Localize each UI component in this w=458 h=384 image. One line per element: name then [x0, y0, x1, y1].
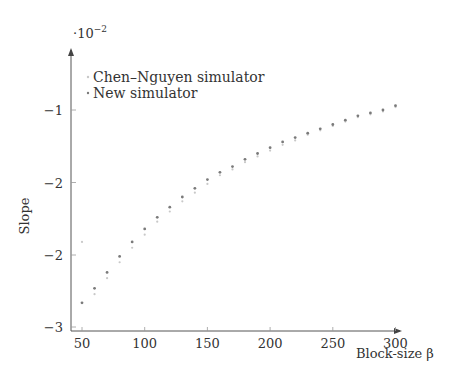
- data-point-chen-nguyen: [156, 221, 158, 223]
- data-point-chen-nguyen: [169, 210, 171, 212]
- x-tick-label: 200: [258, 336, 283, 351]
- data-point-new-simulator: [143, 228, 146, 231]
- data-point-chen-nguyen: [231, 168, 233, 170]
- legend-marker-new-simulator: [87, 92, 89, 94]
- data-point-new-simulator: [219, 171, 222, 174]
- y-tick-label: −2: [44, 248, 63, 263]
- data-point-new-simulator: [294, 136, 297, 139]
- data-point-new-simulator: [306, 132, 309, 135]
- y-multiplier-label: ·10−2: [73, 24, 107, 41]
- data-point-new-simulator: [231, 165, 234, 168]
- data-point-new-simulator: [106, 271, 109, 274]
- data-point-new-simulator: [244, 158, 247, 161]
- y-tick-label: −3: [44, 320, 63, 335]
- data-point-new-simulator: [206, 178, 209, 181]
- data-point-new-simulator: [369, 112, 372, 115]
- data-point-chen-nguyen: [219, 174, 221, 176]
- data-point-chen-nguyen: [206, 183, 208, 185]
- legend-label-chen-nguyen: Chen–Nguyen simulator: [93, 69, 265, 85]
- data-point-new-simulator: [118, 255, 121, 258]
- data-point-new-simulator: [319, 127, 322, 130]
- data-point-new-simulator: [331, 123, 334, 126]
- data-point-chen-nguyen: [119, 261, 121, 263]
- data-point-new-simulator: [181, 196, 184, 199]
- data-point-new-simulator: [382, 109, 385, 112]
- data-point-new-simulator: [256, 152, 259, 155]
- data-point-new-simulator: [394, 104, 397, 107]
- x-tick-label: 50: [74, 336, 91, 351]
- data-point-chen-nguyen: [282, 144, 284, 146]
- data-point-chen-nguyen: [256, 155, 258, 157]
- data-point-chen-nguyen: [93, 293, 95, 295]
- legend: Chen–Nguyen simulator New simulator: [87, 69, 265, 101]
- data-point-chen-nguyen: [294, 139, 296, 141]
- data-point-new-simulator: [131, 241, 134, 244]
- scatter-chart: 50100150200250300−1−2−2−3 Chen–Nguyen si…: [0, 0, 458, 384]
- data-point-chen-nguyen: [81, 241, 83, 243]
- data-point-new-simulator: [281, 141, 284, 144]
- tick-labels: 50100150200250300−1−2−2−3: [44, 103, 408, 351]
- y-tick-label: −1: [44, 103, 63, 118]
- data-point-new-simulator: [356, 114, 359, 117]
- x-tick-label: 250: [320, 336, 345, 351]
- data-point-chen-nguyen: [106, 277, 108, 279]
- y-axis-arrow-icon: [68, 48, 74, 56]
- data-point-new-simulator: [269, 146, 272, 149]
- data-point-new-simulator: [93, 287, 96, 290]
- data-point-chen-nguyen: [244, 161, 246, 163]
- data-point-chen-nguyen: [144, 234, 146, 236]
- data-point-new-simulator: [81, 301, 84, 304]
- legend-marker-chen-nguyen: [87, 76, 89, 78]
- data-point-chen-nguyen: [131, 247, 133, 249]
- data-point-new-simulator: [193, 187, 196, 190]
- data-points: [81, 104, 397, 304]
- y-tick-label: −2: [44, 176, 63, 191]
- x-axis-label: Block-size β: [356, 346, 434, 361]
- x-tick-label: 100: [132, 336, 157, 351]
- data-point-new-simulator: [344, 119, 347, 122]
- x-tick-label: 150: [195, 336, 220, 351]
- data-point-chen-nguyen: [194, 192, 196, 194]
- data-point-chen-nguyen: [181, 200, 183, 202]
- data-point-chen-nguyen: [269, 150, 271, 152]
- legend-label-new-simulator: New simulator: [93, 85, 198, 101]
- data-point-new-simulator: [168, 206, 171, 209]
- y-axis-label: Slope: [17, 197, 32, 234]
- data-point-new-simulator: [156, 216, 159, 219]
